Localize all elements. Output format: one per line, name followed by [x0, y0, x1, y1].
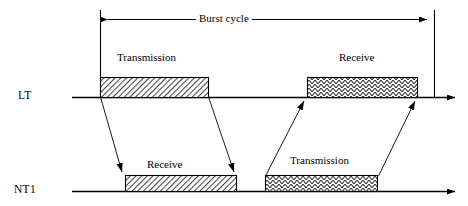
- block-lt-receive: [308, 78, 418, 98]
- row-label-lt: LT: [18, 90, 32, 102]
- timing-diagram-canvas: [0, 0, 468, 206]
- label-nt1-receive: Receive: [147, 159, 182, 170]
- label-nt1-transmission: Transmission: [290, 155, 349, 166]
- propagation-line-right-down: [209, 97, 235, 172]
- propagation-line-right-up: [379, 101, 416, 176]
- block-nt1-receive: [126, 176, 237, 192]
- timing-diagram: Burst cycle LT NT1 Transmission Receive …: [0, 0, 468, 206]
- row-label-nt1: NT1: [14, 184, 36, 196]
- burst-cycle-label: Burst cycle: [196, 13, 252, 24]
- propagation-line-left-down: [101, 97, 123, 172]
- block-lt-transmission: [101, 78, 209, 98]
- block-nt1-transmission: [266, 176, 378, 192]
- label-lt-receive: Receive: [339, 52, 374, 63]
- label-lt-transmission: Transmission: [117, 52, 176, 63]
